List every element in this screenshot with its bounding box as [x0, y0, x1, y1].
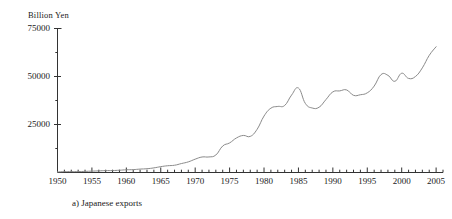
- x-tick-label: 1980: [255, 176, 273, 186]
- figure-caption: a) Japanese exports: [72, 198, 142, 208]
- x-tick-label: 1950: [49, 176, 67, 186]
- chart-plot-area: [0, 0, 452, 219]
- y-tick-label: 25000: [8, 119, 50, 129]
- chart-figure: Billion Yen 250005000075000 195019551960…: [0, 0, 452, 219]
- x-tick-label: 2005: [427, 176, 445, 186]
- y-tick-label: 75000: [8, 23, 50, 33]
- data-series-line: [58, 47, 437, 172]
- x-tick-label: 1970: [186, 176, 204, 186]
- y-tick-label: 50000: [8, 71, 50, 81]
- x-tick-label: 1995: [358, 176, 376, 186]
- x-tick-label: 1960: [117, 176, 135, 186]
- x-tick-label: 1975: [221, 176, 239, 186]
- x-tick-label: 2000: [393, 176, 411, 186]
- x-tick-label: 1985: [289, 176, 307, 186]
- axes: [58, 28, 444, 173]
- x-tick-label: 1965: [152, 176, 170, 186]
- x-tick-label: 1990: [324, 176, 342, 186]
- x-tick-label: 1955: [83, 176, 101, 186]
